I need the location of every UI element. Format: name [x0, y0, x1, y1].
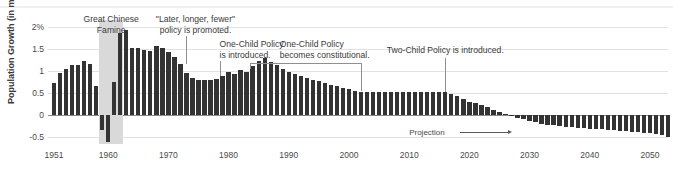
bar: [377, 92, 381, 115]
x-tick-label: 2030: [520, 150, 539, 160]
bar: [521, 115, 525, 119]
bar: [606, 115, 610, 130]
bar: [118, 33, 122, 115]
leader-line-one-child-policy-constitutional-right: [361, 63, 362, 91]
bar: [160, 48, 164, 115]
bar: [419, 92, 423, 115]
y-tick-label: 1.5: [2, 45, 44, 53]
y-tick-label: 0: [2, 111, 44, 119]
bar: [425, 92, 429, 115]
leader-line-two-child-policy-introduced: [445, 58, 446, 92]
bar: [184, 73, 188, 115]
bar: [220, 76, 224, 114]
bar: [630, 115, 634, 132]
bar: [437, 92, 441, 115]
bar: [485, 107, 489, 115]
bar: [395, 92, 399, 115]
bar: [491, 110, 495, 115]
bar: [238, 70, 242, 115]
bar: [94, 86, 98, 115]
bar: [407, 92, 411, 115]
bar: [287, 72, 291, 115]
projection-arrowhead: [508, 130, 512, 134]
bar: [269, 62, 273, 115]
bar: [449, 94, 453, 115]
bar: [178, 64, 182, 115]
bar: [323, 83, 327, 115]
bar: [473, 103, 477, 114]
bar: [539, 115, 543, 124]
projection-label: Projection: [409, 128, 445, 137]
bar: [365, 92, 369, 115]
x-axis-ticks: 1951196019701980199020002010202020302040…: [48, 150, 668, 166]
annotation-later-longer-fewer: "Later, longer, fewer" policy is promote…: [156, 14, 235, 35]
bar: [479, 105, 483, 115]
bar: [329, 85, 333, 115]
bar: [624, 115, 628, 131]
bar: [305, 78, 309, 115]
bar: [112, 82, 116, 115]
bar: [509, 115, 513, 116]
annotation-one-child-policy-constitutional: One-Child Policy becomes constitutional.: [280, 39, 370, 60]
bar: [401, 92, 405, 115]
bar: [648, 115, 652, 133]
x-tick-label: 2000: [340, 150, 359, 160]
bar: [208, 80, 212, 115]
annotation-two-child-policy-introduced: Two-Child Policy is introduced.: [387, 45, 504, 56]
x-tick-label: 1980: [219, 150, 238, 160]
bar: [226, 72, 230, 115]
bar: [570, 115, 574, 127]
bar: [551, 115, 555, 126]
bar: [431, 92, 435, 115]
bar: [263, 58, 267, 114]
bar: [148, 51, 152, 115]
bar: [190, 78, 194, 115]
bar: [455, 96, 459, 115]
x-tick-label: 1951: [45, 150, 64, 160]
bar: [594, 115, 598, 129]
bar: [371, 92, 375, 115]
bar: [281, 69, 285, 115]
bar: [443, 92, 447, 115]
leader-line-one-child-policy-constitutional-horizontal: [250, 63, 361, 64]
bar: [232, 74, 236, 115]
bar: [557, 115, 561, 126]
bar: [413, 92, 417, 115]
bar: [515, 115, 519, 118]
bar: [244, 72, 248, 115]
bar: [533, 115, 537, 123]
bar: [636, 115, 640, 132]
y-tick-label: 1: [2, 67, 44, 75]
bar: [64, 69, 68, 115]
bar: [257, 61, 261, 115]
bar: [666, 115, 670, 137]
bar: [154, 46, 158, 115]
bar: [654, 115, 658, 134]
bar: [52, 83, 56, 115]
bar: [82, 61, 86, 115]
y-tick-label: 2%: [2, 23, 44, 31]
bar: [545, 115, 549, 125]
bar: [76, 65, 80, 114]
x-tick-label: 2050: [640, 150, 659, 160]
leader-line-later-longer-fewer: [186, 36, 187, 64]
y-tick-label: 0.5: [2, 89, 44, 97]
bar: [347, 89, 351, 115]
bar: [136, 48, 140, 115]
bar: [130, 48, 134, 115]
bar: [202, 80, 206, 115]
bar: [100, 115, 104, 130]
bar: [172, 57, 176, 115]
bar: [106, 115, 110, 142]
bar: [600, 115, 604, 130]
bar: [293, 74, 297, 115]
top-divider-rule: [0, 6, 673, 8]
bar: [335, 86, 339, 115]
bar: [341, 88, 345, 115]
leader-line-one-child-policy-introduced: [220, 61, 221, 76]
bar: [527, 115, 531, 121]
bar: [618, 115, 622, 131]
bar: [383, 92, 387, 115]
bar: [196, 80, 200, 115]
leader-line-one-child-policy-constitutional-left: [250, 63, 251, 69]
